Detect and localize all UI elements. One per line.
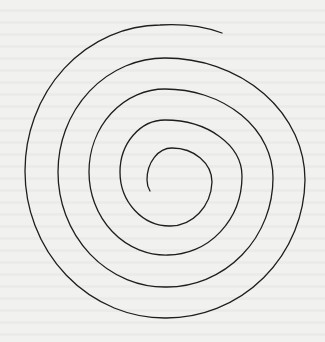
spiral-line (25, 25, 305, 318)
spiral-drawing (0, 0, 325, 342)
figure-canvas: Spiral (0, 0, 325, 342)
